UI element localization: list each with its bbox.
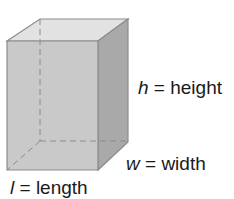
length-label: l = length — [10, 178, 88, 197]
prism-front-face — [7, 41, 98, 170]
height-word: height — [170, 77, 222, 98]
height-variable: h — [138, 77, 149, 98]
length-word: length — [36, 177, 88, 198]
width-word: width — [161, 153, 205, 174]
prism-side-face — [98, 19, 128, 170]
height-equals: = — [149, 77, 171, 98]
width-variable: w — [126, 153, 140, 174]
length-equals: = — [14, 177, 36, 198]
prism-diagram: h = height w = width l = length — [0, 0, 234, 199]
width-label: w = width — [126, 154, 206, 173]
width-equals: = — [140, 153, 162, 174]
height-label: h = height — [138, 78, 222, 97]
